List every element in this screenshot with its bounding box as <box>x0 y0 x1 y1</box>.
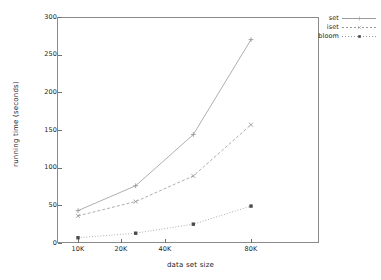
cross-marker-icon <box>357 25 362 30</box>
legend-item-iset: iset <box>300 23 376 32</box>
y-tick-label: 250 <box>17 51 57 58</box>
x-tick-label: 20K <box>106 246 136 253</box>
y-tick-mark <box>58 92 62 93</box>
plot-area <box>57 17 319 243</box>
x-tick-mark <box>251 239 252 243</box>
y-tick-label: 0 <box>17 240 57 247</box>
x-tick-label: 80K <box>236 246 266 253</box>
y-tick-label: 150 <box>17 127 57 134</box>
x-axis-title: data set size <box>0 261 381 269</box>
legend: set iset bloom <box>300 14 376 41</box>
x-tick-mark <box>165 239 166 243</box>
square-marker-icon <box>357 34 362 39</box>
line-chart: 300 250 200 150 100 50 0 10K 20K 40K 80K… <box>0 0 381 280</box>
x-tick-mark <box>121 239 122 243</box>
legend-key-set <box>342 15 376 23</box>
y-tick-mark <box>58 130 62 131</box>
legend-label: set <box>329 15 339 22</box>
x-tick-mark <box>78 239 79 243</box>
y-tick-label: 50 <box>17 202 57 209</box>
legend-item-bloom: bloom <box>300 32 376 41</box>
plus-marker-icon <box>357 16 362 21</box>
legend-key-iset <box>342 24 376 32</box>
legend-key-bloom <box>342 33 376 41</box>
y-tick-label: 300 <box>17 14 57 21</box>
y-tick-label: 200 <box>17 89 57 96</box>
x-tick-label: 10K <box>63 246 93 253</box>
y-tick-label: 100 <box>17 164 57 171</box>
y-tick-mark <box>58 17 62 18</box>
y-tick-mark <box>58 205 62 206</box>
y-tick-mark <box>58 168 62 169</box>
y-tick-mark <box>58 55 62 56</box>
x-tick-label: 40K <box>150 246 180 253</box>
y-axis-title: running time (seconds) <box>12 64 20 184</box>
legend-label: bloom <box>318 33 339 40</box>
y-tick-mark <box>58 243 62 244</box>
legend-label: iset <box>327 24 339 31</box>
legend-item-set: set <box>300 14 376 23</box>
